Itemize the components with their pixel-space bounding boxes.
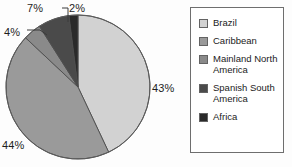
legend-item-spanish-south-america[interactable]: Spanish South America [199, 82, 279, 104]
slice-label-africa: 2% [69, 2, 85, 14]
legend-item-brazil[interactable]: Brazil [199, 17, 279, 28]
legend-list: BrazilCaribbeanMainland North AmericaSpa… [199, 17, 279, 129]
legend-box: BrazilCaribbeanMainland North AmericaSpa… [190, 7, 284, 153]
pie-chart-figure: 43% 44% 4% 7% 2% BrazilCaribbeanMainland… [0, 0, 292, 167]
slice-label-caribbean: 44% [2, 139, 24, 151]
legend-item-label: Mainland North America [213, 53, 279, 75]
legend-item-label: Brazil [213, 17, 237, 28]
pie-slice-group [6, 15, 150, 159]
legend-item-label: Spanish South America [213, 82, 279, 104]
legend-item-label: Africa [213, 111, 237, 122]
legend-item-label: Caribbean [213, 35, 257, 46]
legend-swatch-icon [199, 55, 208, 64]
legend-item-africa[interactable]: Africa [199, 111, 279, 122]
legend-item-caribbean[interactable]: Caribbean [199, 35, 279, 46]
legend-swatch-icon [199, 19, 208, 28]
legend-swatch-icon [199, 113, 208, 122]
legend-swatch-icon [199, 37, 208, 46]
slice-label-mainland-north-america: 4% [4, 26, 20, 38]
slice-label-brazil: 43% [152, 82, 174, 94]
slice-label-spanish-south-america: 7% [27, 2, 43, 14]
legend-swatch-icon [199, 84, 208, 93]
legend-item-mainland-north-america[interactable]: Mainland North America [199, 53, 279, 75]
